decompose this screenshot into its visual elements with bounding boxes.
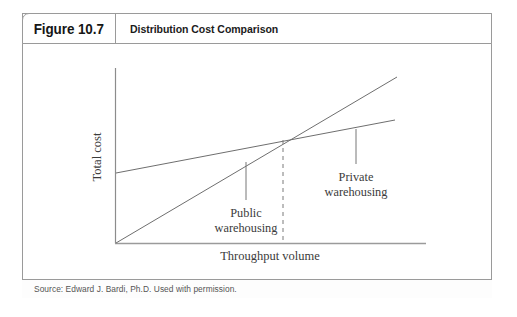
public-warehousing-label-line2: warehousing xyxy=(215,221,278,235)
figure-number-label: Figure 10.7 xyxy=(34,21,104,37)
y-axis-label: Total cost xyxy=(90,132,104,181)
figure-page: Figure 10.7 Distribution Cost Comparison… xyxy=(0,0,517,317)
x-axis-label: Throughput volume xyxy=(220,249,320,263)
private-warehousing-label-line1: Private xyxy=(339,170,374,184)
public-warehousing-label-line1: Public xyxy=(230,206,262,220)
figure-source-band: Source: Edward J. Bardi, Ph.D. Used with… xyxy=(22,279,492,298)
private-warehousing-label-line2: warehousing xyxy=(325,185,388,199)
figure-number-cell: Figure 10.7 xyxy=(23,14,116,43)
figure-title-cell: Distribution Cost Comparison xyxy=(116,14,491,43)
figure-source-label: Source: Edward J. Bardi, Ph.D. Used with… xyxy=(34,284,237,294)
distribution-cost-chart: Total cost Throughput volume Public ware… xyxy=(23,45,491,279)
figure-title-label: Distribution Cost Comparison xyxy=(130,23,278,35)
private-warehousing-line xyxy=(116,120,395,173)
figure-header: Figure 10.7 Distribution Cost Comparison xyxy=(22,13,492,44)
chart-plot-area: Total cost Throughput volume Public ware… xyxy=(23,45,491,279)
